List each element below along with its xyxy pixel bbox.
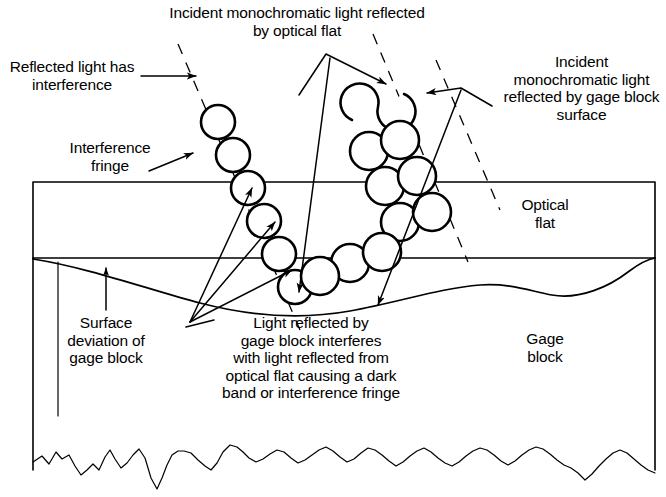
interference-wave-train-left xyxy=(201,105,312,304)
label-incident-light-optical-flat: Incident monochromatic light reflected b… xyxy=(168,4,426,39)
dashed-incident-ray-right-outer xyxy=(436,60,500,210)
label-optical-flat: Optical flat xyxy=(490,196,600,231)
label-surface-deviation: Surface deviation of gage block xyxy=(40,314,172,367)
leader-incident-gage-block xyxy=(427,88,492,106)
interference-wave-train-right xyxy=(301,84,451,295)
label-reflected-light-interference: Reflected light has interference xyxy=(4,58,140,93)
interference-fringe-diagram: Incident monochromatic light reflected b… xyxy=(0,0,666,497)
label-interference-fringe: Interference fringe xyxy=(58,139,162,174)
label-incident-light-gage-block: Incident monochromatic light reflected b… xyxy=(497,53,666,123)
gage-block-broken-bottom-edge xyxy=(33,445,655,489)
label-gage-block: Gage block xyxy=(498,330,592,365)
label-light-reflected-note: Light reflected by gage block interferes… xyxy=(196,314,426,402)
